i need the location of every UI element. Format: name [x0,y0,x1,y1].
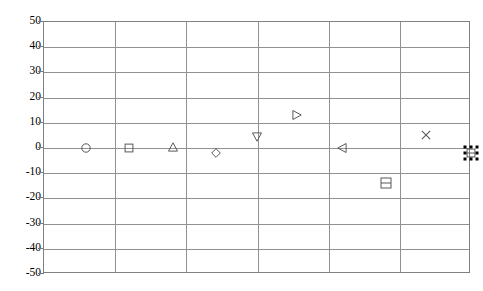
selection-handle[interactable] [470,146,473,149]
y-axis-tick-label: -10 [3,166,41,178]
point-triangle-up[interactable] [168,142,179,153]
point-cross-x[interactable] [421,130,432,141]
y-axis-tick-label: 20 [3,91,41,103]
point-triangle-down[interactable] [252,132,263,143]
selection-handle[interactable] [470,158,473,161]
gridline-horizontal [44,249,469,250]
gridline-vertical [186,22,187,272]
point-triangle-left[interactable] [337,143,348,154]
gridline-vertical [329,22,330,272]
gridline-horizontal [44,47,469,48]
y-axis-tick-label: 40 [3,40,41,52]
gridline-vertical [258,22,259,272]
y-axis-tick-label: -30 [3,217,41,229]
plot-area [43,21,470,273]
point-diamond[interactable] [211,148,222,159]
gridline-horizontal [44,198,469,199]
y-axis-tick-label: -50 [3,267,41,279]
point-square[interactable] [124,143,135,154]
gridline-horizontal [44,123,469,124]
gridline-horizontal [44,148,469,149]
point-triangle-right[interactable] [292,110,303,121]
selection-handle[interactable] [464,158,467,161]
selection-handle[interactable] [476,158,479,161]
chart-canvas: 50403020100-10-20-30-40-50 [0,0,483,291]
y-axis-tick-mark [38,273,44,274]
point-barred-square[interactable] [380,177,393,190]
y-axis-tick-labels: 50403020100-10-20-30-40-50 [0,0,41,291]
gridline-horizontal [44,72,469,73]
y-axis-tick-label: 10 [3,116,41,128]
gridline-vertical [115,22,116,272]
selection-handle[interactable] [464,146,467,149]
selection-handle[interactable] [476,146,479,149]
y-axis-tick-label: 50 [3,15,41,27]
selection-handle[interactable] [464,152,467,155]
gridline-vertical [400,22,401,272]
y-axis-tick-label: 0 [3,141,41,153]
y-axis-tick-label: -20 [3,192,41,204]
gridline-horizontal [44,224,469,225]
selection-handle[interactable] [476,152,479,155]
y-axis-tick-label: -40 [3,242,41,254]
y-axis-tick-label: 30 [3,66,41,78]
gridline-horizontal [44,98,469,99]
gridline-horizontal [44,173,469,174]
selection-handles[interactable] [464,146,479,161]
point-circle[interactable] [81,143,92,154]
